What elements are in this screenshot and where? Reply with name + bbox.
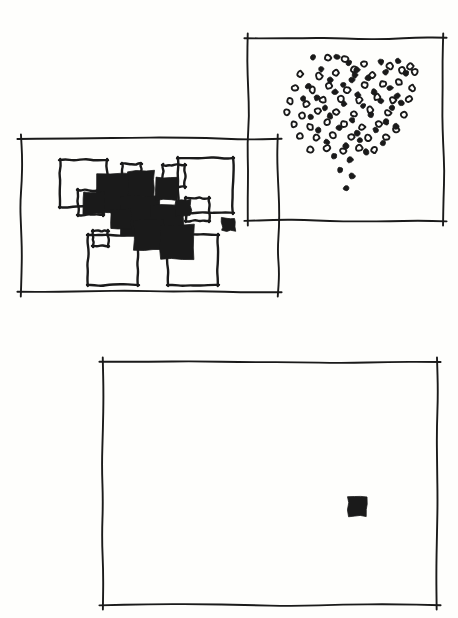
panel-squares-frame-top-edge [17, 138, 281, 140]
open-dot-36 [292, 121, 297, 127]
open-dot-0 [325, 55, 331, 61]
filled-dot-40 [357, 138, 362, 143]
filled-square-9 [175, 199, 192, 216]
open-dot-44 [314, 135, 320, 141]
filled-dot-3 [346, 60, 351, 65]
panel-squares-frame-left-edge [20, 135, 22, 297]
filled-dot-15 [314, 95, 320, 101]
open-dot-18 [396, 79, 402, 85]
filled-square-8 [111, 208, 132, 229]
open-dot-20 [287, 98, 292, 104]
open-dot-32 [351, 111, 357, 116]
open-dot-48 [383, 134, 390, 139]
open-dot-52 [356, 145, 363, 151]
filled-dot-35 [354, 130, 360, 136]
open-dot-40 [359, 124, 365, 129]
filled-dot-8 [327, 77, 333, 83]
filled-dot-41 [380, 140, 385, 145]
outlined-square-7 [87, 234, 139, 286]
filled-dot-26 [389, 105, 394, 110]
filled-dot-33 [316, 127, 321, 133]
open-dot-28 [284, 109, 290, 115]
filled-dot-11 [305, 83, 311, 88]
open-dot-3 [386, 63, 393, 70]
open-dot-19 [409, 85, 415, 92]
filled-dot-24 [361, 104, 366, 109]
open-dot-53 [371, 147, 377, 153]
filled-dot-6 [378, 59, 383, 65]
filled-dot-32 [383, 119, 389, 125]
open-dot-21 [303, 101, 309, 107]
filled-dot-22 [323, 105, 328, 111]
sketch-canvas [0, 0, 458, 618]
filled-dot-1 [334, 54, 340, 59]
open-dot-24 [356, 97, 362, 103]
filled-dot-19 [371, 89, 377, 95]
panel-single-frame-top-edge [99, 361, 440, 362]
open-dot-39 [341, 121, 347, 127]
open-dot-43 [297, 133, 303, 139]
open-dot-27 [406, 96, 413, 102]
open-dot-31 [333, 109, 340, 115]
outlined-square-6 [92, 230, 109, 247]
panel-dots-open-dots [284, 55, 417, 154]
open-dot-37 [307, 124, 313, 130]
open-dot-16 [362, 82, 368, 88]
filled-dot-37 [393, 123, 399, 129]
open-dot-46 [348, 134, 354, 139]
filled-square-0 [347, 496, 367, 516]
filled-dot-2 [319, 67, 324, 72]
filled-dot-12 [365, 75, 371, 81]
filled-dot-16 [332, 89, 339, 95]
open-dot-6 [316, 73, 323, 80]
filled-dot-9 [341, 83, 346, 88]
filled-dot-0 [311, 55, 316, 60]
open-dot-45 [330, 132, 336, 138]
filled-square-5 [83, 191, 105, 215]
filled-dot-42 [332, 153, 337, 158]
open-dot-17 [380, 81, 386, 87]
open-dot-12 [292, 85, 299, 90]
filled-dot-29 [327, 113, 332, 119]
panel-squares-frame-right-edge [277, 135, 279, 297]
open-dot-47 [365, 135, 371, 141]
panel-dots-frame-right-edge [442, 34, 444, 226]
filled-dot-45 [338, 167, 343, 172]
bottom-panel-single-square [99, 358, 440, 610]
filled-dot-36 [373, 127, 378, 132]
filled-dot-25 [378, 98, 384, 103]
filled-dot-14 [403, 70, 408, 76]
filled-dot-34 [336, 125, 342, 130]
filled-dot-28 [308, 114, 313, 119]
filled-dot-43 [347, 157, 353, 163]
panel-single-filled-squares [347, 496, 367, 516]
filled-dot-39 [343, 143, 349, 149]
filled-dot-21 [394, 93, 400, 99]
left-panel-overlapping-squares [17, 135, 281, 297]
open-dot-38 [324, 119, 330, 125]
filled-dot-13 [383, 69, 388, 75]
open-dot-50 [324, 145, 331, 151]
panel-dots-frame-bottom-edge [244, 220, 446, 222]
filled-dot-7 [395, 58, 401, 63]
panel-squares-frame-bottom-edge [17, 291, 281, 293]
top-right-panel-dot-cluster [244, 34, 446, 226]
filled-dot-23 [341, 101, 347, 106]
panel-dots-frame-top-edge [244, 38, 446, 40]
open-dot-49 [307, 147, 313, 153]
filled-dot-38 [324, 139, 330, 144]
filled-dot-10 [349, 77, 355, 83]
open-dot-2 [361, 62, 367, 67]
filled-dot-47 [343, 186, 349, 191]
open-dot-30 [315, 108, 321, 114]
open-dot-14 [326, 83, 332, 89]
filled-square-1 [127, 170, 154, 197]
filled-dot-20 [387, 86, 394, 91]
open-dot-11 [412, 69, 418, 75]
filled-dot-44 [363, 149, 368, 155]
panel-single-frame [99, 358, 440, 610]
open-dot-15 [344, 87, 351, 93]
open-dot-22 [320, 97, 326, 103]
filled-dot-46 [349, 173, 355, 179]
hand-drawn-figure [0, 0, 458, 618]
